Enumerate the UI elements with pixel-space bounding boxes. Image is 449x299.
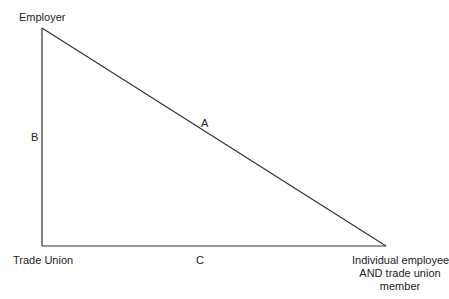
- edge-a-line: [42, 28, 386, 246]
- vertex-label-employer: Employer: [19, 11, 65, 24]
- edge-label-c: C: [196, 254, 204, 267]
- vertex-label-trade-union: Trade Union: [13, 254, 73, 267]
- vertex-label-individual-line-3: member: [352, 280, 448, 293]
- edge-label-b: B: [31, 131, 38, 144]
- vertex-label-individual-line-1: Individual employee: [352, 254, 448, 267]
- vertex-label-individual-line-2: AND trade union: [352, 267, 448, 280]
- vertex-label-individual: Individual employee AND trade union memb…: [352, 254, 448, 293]
- edge-label-a: A: [201, 117, 208, 130]
